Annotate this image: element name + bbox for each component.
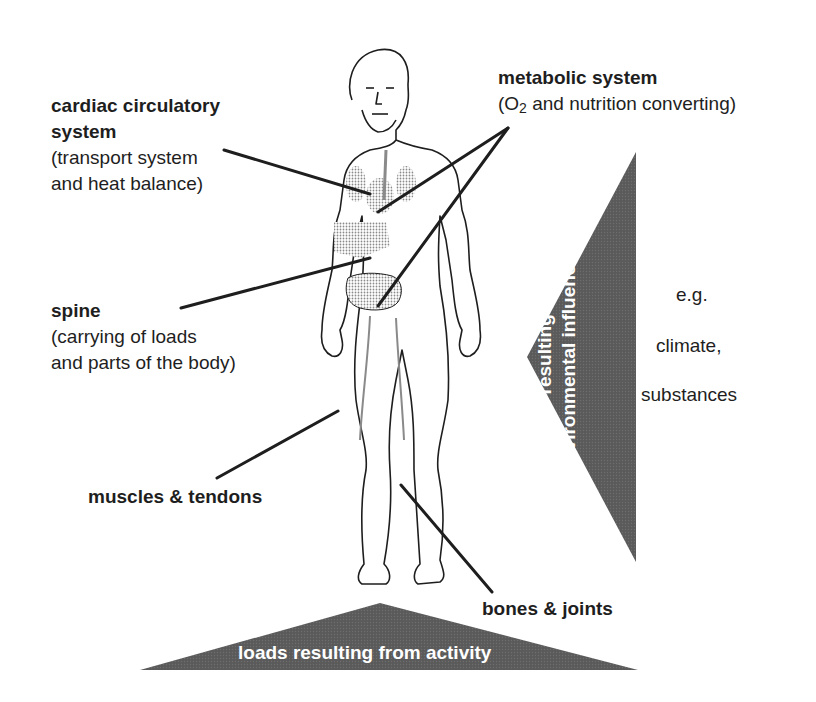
head [321, 49, 480, 584]
muscles-title: muscles & tendons [88, 484, 262, 510]
body-outline [321, 49, 480, 584]
metabolic-desc-suffix: and nutrition converting) [527, 93, 736, 114]
spine-label: spine (carrying of loads and parts of th… [51, 298, 236, 376]
environment-text-line1: loads resulting from [533, 238, 557, 478]
example-substances: substances [641, 384, 737, 406]
environment-triangle-text: loads resulting from environmental influ… [533, 238, 581, 478]
spine-title: spine [51, 298, 236, 324]
muscles-label: muscles & tendons [88, 484, 262, 510]
example-climate: climate, [656, 335, 721, 357]
spine-desc-line1: (carrying of loads [51, 324, 236, 350]
bones-title: bones & joints [482, 596, 613, 622]
cardiac-label: cardiac circulatory system (transport sy… [51, 93, 220, 197]
metabolic-title: metabolic system [498, 65, 736, 91]
cardiac-title-line2: system [51, 119, 220, 145]
metabolic-desc-subscript: 2 [519, 100, 527, 116]
cardiac-desc-line1: (transport system [51, 145, 220, 171]
leader-muscles [217, 411, 338, 478]
spine-desc-line2: and parts of the body) [51, 350, 236, 376]
leader-cardiac [224, 150, 370, 194]
metabolic-desc-prefix: (O [498, 93, 519, 114]
diagram-canvas: cardiac circulatory system (transport sy… [0, 0, 816, 702]
cardiac-desc-line2: and heat balance) [51, 171, 220, 197]
example-eg: e.g. [676, 284, 708, 306]
metabolic-label: metabolic system (O2 and nutrition conve… [498, 65, 736, 117]
cardiac-title-line1: cardiac circulatory [51, 93, 220, 119]
bones-label: bones & joints [482, 596, 613, 622]
activity-triangle-text: loads resulting from activity [238, 642, 491, 664]
organ-shading [334, 150, 416, 440]
environment-text-line2: environmental influences [557, 238, 581, 478]
metabolic-desc: (O2 and nutrition converting) [498, 91, 736, 117]
